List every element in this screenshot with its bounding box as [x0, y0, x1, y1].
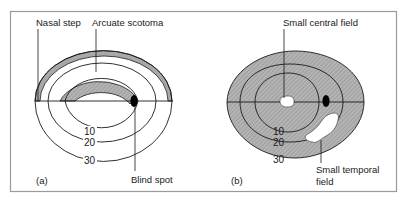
isopter-label-20: 20 — [84, 137, 96, 148]
isopter-label-30: 30 — [273, 154, 285, 165]
blind-spot — [322, 95, 329, 107]
panel-b: Small central field Small temporal field… — [227, 17, 379, 187]
isopter-label-10: 10 — [273, 126, 285, 137]
label-nasal-step: Nasal step — [36, 17, 81, 28]
isopter-label-30: 30 — [84, 155, 96, 166]
panel-tag-b: (b) — [231, 175, 243, 186]
label-blind-spot: Blind spot — [131, 174, 173, 185]
blind-spot — [130, 95, 137, 107]
nasal-step-band — [35, 51, 172, 101]
panel-a: Nasal step Arcuate scotoma Blind spot 10… — [35, 17, 173, 186]
label-small-central-field: Small central field — [283, 17, 358, 28]
small-central-field — [280, 96, 294, 107]
isopter-label-20: 20 — [273, 137, 285, 148]
label-small-temporal-field-2: field — [316, 176, 333, 187]
label-small-temporal-field-1: Small temporal — [316, 164, 379, 175]
isopter-label-10: 10 — [84, 126, 96, 137]
label-arcuate-scotoma: Arcuate scotoma — [92, 17, 164, 28]
panel-tag-a: (a) — [36, 175, 48, 186]
visual-field-figure: Nasal step Arcuate scotoma Blind spot 10… — [0, 0, 410, 202]
isopter-20 — [48, 63, 156, 142]
